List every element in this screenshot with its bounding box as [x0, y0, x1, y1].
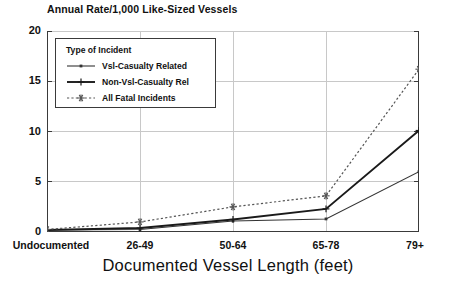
legend-label: Vsl-Casualty Related	[102, 61, 187, 71]
data-point-marker	[47, 226, 51, 232]
data-point-marker	[415, 66, 419, 73]
data-point-marker	[136, 218, 143, 225]
data-point-marker	[78, 79, 85, 86]
chart-figure: Annual Rate/1,000 Like-Sized Vessels 051…	[0, 0, 456, 283]
y-tick-label: 0	[11, 225, 41, 237]
legend-swatch-dot-icon	[66, 59, 96, 73]
legend-title: Type of Incident	[66, 45, 131, 55]
legend-entry: All Fatal Incidents	[66, 91, 214, 105]
y-tick-label: 15	[11, 74, 41, 86]
data-point-marker	[229, 203, 236, 210]
chart-title: Annual Rate/1,000 Like-Sized Vessels	[47, 3, 237, 15]
data-point-marker	[325, 218, 328, 221]
legend-label: All Fatal Incidents	[102, 93, 176, 103]
legend: Type of Incident Vsl-Casualty RelatedNon…	[55, 38, 216, 108]
data-point-marker	[137, 225, 144, 232]
legend-swatch-asterisk-icon	[66, 91, 96, 105]
legend-entry: Non-Vsl-Casualty Rel	[66, 75, 214, 89]
data-point-marker	[77, 94, 84, 101]
y-tick-label: 5	[11, 175, 41, 187]
legend-label: Non-Vsl-Casualty Rel	[102, 77, 189, 87]
data-point-marker	[230, 216, 237, 223]
legend-entry: Vsl-Casualty Related	[66, 59, 214, 73]
x-axis-title: Documented Vessel Length (feet)	[0, 256, 456, 275]
x-tick-label: 79+	[355, 239, 456, 251]
legend-swatch-plus-icon	[66, 75, 96, 89]
data-point-marker	[418, 170, 419, 173]
y-tick-label: 20	[11, 24, 41, 36]
data-point-marker	[80, 65, 83, 68]
data-point-marker	[322, 192, 329, 199]
y-tick-label: 10	[11, 125, 41, 137]
